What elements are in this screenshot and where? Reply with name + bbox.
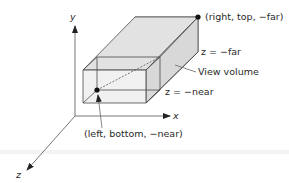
far-plane-label: z = −far <box>201 46 241 57</box>
x-axis-label: x <box>172 110 179 121</box>
z-axis-label: z <box>15 169 22 180</box>
view-volume-diagram: y x z (right, top, −far) z = −far View v… <box>0 0 289 183</box>
y-axis-label: y <box>69 11 76 22</box>
far-corner-point <box>195 14 200 19</box>
near-corner-point <box>94 87 99 92</box>
far-corner-label: (right, top, −far) <box>205 11 283 22</box>
view-volume-label: View volume <box>198 66 259 77</box>
z-axis <box>27 116 75 170</box>
near-face <box>83 70 146 103</box>
near-plane-label: z = −near <box>165 86 214 97</box>
near-corner-label: (left, bottom, −near) <box>84 128 183 139</box>
